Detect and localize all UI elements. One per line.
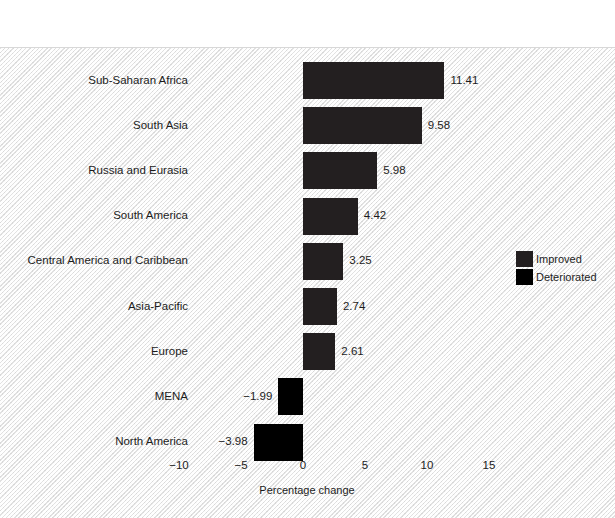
legend: ImprovedDeteriorated <box>516 250 597 286</box>
legend-label: Deteriorated <box>536 271 597 283</box>
legend-item-improved: Improved <box>516 250 597 267</box>
x-axis-title: Percentage change <box>259 484 354 496</box>
x-tick-label: 0 <box>300 459 306 471</box>
title-divider <box>0 47 615 48</box>
x-tick-label: 15 <box>483 459 496 471</box>
legend-swatch-icon <box>516 251 533 267</box>
figure-container: Figure 2.15 Change in Health and Wellbei… <box>0 0 615 518</box>
title-band <box>0 0 615 47</box>
legend-label: Improved <box>536 253 582 265</box>
x-tick-label: −5 <box>234 459 247 471</box>
legend-swatch-icon <box>516 269 533 285</box>
x-tick-label: −10 <box>169 459 189 471</box>
x-tick-label: 10 <box>421 459 434 471</box>
x-tick-label: 5 <box>362 459 368 471</box>
legend-item-deteriorated: Deteriorated <box>516 268 597 285</box>
